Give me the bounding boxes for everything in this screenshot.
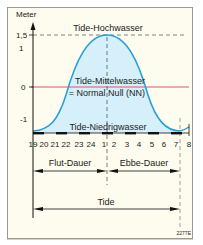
- flood-duration-label: Flut-Dauer: [49, 158, 92, 168]
- y-axis-label: Meter: [16, 10, 37, 19]
- tide-curve-rise: [180, 127, 189, 131]
- y-tick-0: 0: [21, 83, 26, 92]
- tide-diagram: Meter 1,5 1 0 -1 Tide-Hochwasser Tide-Mi…: [0, 0, 203, 245]
- y-tick-1-5: 1,5: [16, 31, 28, 40]
- svg-text:23: 23: [75, 140, 84, 149]
- low-water-label: Tide-Niedrigwasser: [69, 122, 146, 132]
- svg-text:6: 6: [162, 140, 167, 149]
- arrow-left-icon: [33, 169, 43, 173]
- arrow-left-icon: [33, 207, 43, 211]
- arrow-right-icon: [170, 169, 180, 173]
- ebb-duration-label: Ebbe-Dauer: [120, 158, 169, 168]
- tide-label: Tide: [97, 197, 114, 207]
- svg-text:4: 4: [137, 140, 142, 149]
- time-tick-labels: 19 20 21 22 23 24 1 2 3 4 5 6 7 8: [29, 140, 192, 149]
- svg-text:2: 2: [112, 140, 117, 149]
- svg-text:7: 7: [174, 140, 179, 149]
- arrow-left-icon: [108, 169, 118, 173]
- mean-water-label: Tide-Mittelwasser: [75, 76, 145, 86]
- svg-text:20: 20: [40, 140, 49, 149]
- svg-text:22: 22: [62, 140, 71, 149]
- svg-text:19: 19: [29, 140, 38, 149]
- svg-text:24: 24: [87, 140, 96, 149]
- svg-text:5: 5: [150, 140, 155, 149]
- svg-text:3: 3: [125, 140, 130, 149]
- svg-text:8: 8: [187, 140, 192, 149]
- figure-id: 2277E: [177, 230, 192, 236]
- y-axis-arrow-icon: [31, 22, 36, 30]
- svg-text:1: 1: [102, 140, 107, 149]
- arrow-right-icon: [97, 169, 107, 173]
- y-tick-1: 1: [19, 44, 24, 53]
- normal-null-label: = Normal Null (NN): [69, 88, 145, 98]
- high-water-label: Tide-Hochwasser: [73, 23, 143, 33]
- arrow-right-icon: [170, 207, 180, 211]
- svg-text:21: 21: [51, 140, 60, 149]
- y-tick-minus-1: -1: [20, 115, 28, 124]
